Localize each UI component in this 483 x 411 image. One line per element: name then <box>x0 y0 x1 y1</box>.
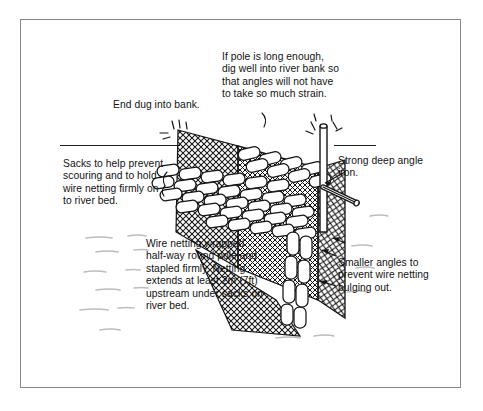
diagram-page: If pole is long enough, dig well into ri… <box>0 0 483 411</box>
caption-pole: If pole is long enough, dig well into ri… <box>222 51 340 101</box>
caption-netting: Wire netting wrapped half-way round pole… <box>146 238 266 312</box>
caption-bank-end: End dug into bank. <box>113 99 217 111</box>
vertical-pole <box>320 124 327 232</box>
caption-angle-iron: Strong deep angle iron. <box>338 155 434 180</box>
caption-smaller-angles: Smaller angles to prevent wire netting b… <box>338 257 438 294</box>
caption-sacks: Sacks to help prevent scouring and to ho… <box>63 158 167 208</box>
